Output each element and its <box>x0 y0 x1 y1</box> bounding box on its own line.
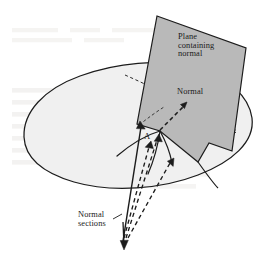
normal-sections-figure: Plane containing normal Normal Normal se… <box>0 0 270 253</box>
normal-sections-leader <box>113 214 122 219</box>
figure-canvas <box>0 0 270 253</box>
